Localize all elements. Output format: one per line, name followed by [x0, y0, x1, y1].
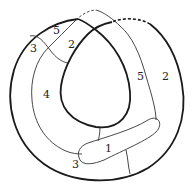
diagram-canvas: 5 3 2 4 5 2 1 3: [0, 0, 193, 189]
region-diagram: 5 3 2 4 5 2 1 3: [0, 0, 193, 189]
thin-curve-right: [96, 10, 156, 120]
label-region-5-right: 5: [137, 70, 144, 83]
connector-capsule-outer: [126, 150, 130, 174]
label-region-3-top-left: 3: [30, 42, 37, 55]
inner-hole-boundary: [61, 19, 131, 127]
label-region-1-capsule: 1: [105, 142, 112, 155]
label-region-4-left: 4: [43, 88, 50, 101]
label-region-2-right: 2: [162, 70, 169, 83]
label-region-2-top: 2: [68, 38, 75, 51]
label-region-3-bottom: 3: [72, 158, 79, 171]
label-region-5-top-left: 5: [53, 24, 60, 37]
